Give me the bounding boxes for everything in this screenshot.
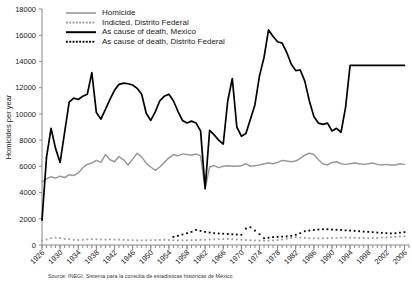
data-point bbox=[290, 235, 292, 237]
data-point bbox=[109, 238, 111, 240]
x-axis-tick-label: 1966 bbox=[209, 248, 227, 266]
data-point bbox=[154, 239, 156, 241]
x-axis-tick-label: 1998 bbox=[354, 248, 372, 266]
data-point bbox=[200, 239, 202, 241]
data-point bbox=[390, 233, 392, 235]
data-point bbox=[227, 238, 229, 240]
data-point bbox=[358, 237, 360, 239]
data-point bbox=[304, 237, 306, 239]
y-axis-tick-label: 10000 bbox=[15, 110, 36, 119]
y-axis-tick-label: 16000 bbox=[15, 31, 36, 40]
data-point bbox=[263, 240, 265, 242]
data-point bbox=[191, 239, 193, 241]
data-point bbox=[82, 239, 84, 241]
legend-item-2: As cause of death, Mexico bbox=[66, 27, 196, 36]
data-point bbox=[376, 232, 378, 234]
x-axis-tick-label: 2002 bbox=[373, 248, 391, 266]
x-axis-tick-label: 1938 bbox=[83, 248, 101, 266]
data-point bbox=[390, 236, 392, 238]
data-point bbox=[385, 237, 387, 239]
data-point bbox=[182, 234, 184, 236]
data-point bbox=[268, 237, 270, 239]
data-point bbox=[367, 237, 369, 239]
legend-swatch-dot bbox=[83, 22, 85, 24]
y-axis-tick-label: 14000 bbox=[15, 57, 36, 66]
data-point bbox=[327, 228, 329, 230]
legend-item-label: As cause of death, Distrito Federal bbox=[102, 37, 225, 46]
data-point bbox=[399, 232, 401, 234]
data-point bbox=[132, 239, 134, 241]
data-point bbox=[281, 239, 283, 241]
legend-swatch-dot bbox=[89, 22, 91, 24]
x-axis-tick-label: 1990 bbox=[318, 248, 336, 266]
data-point bbox=[68, 238, 70, 240]
legend-swatch-dot bbox=[79, 41, 81, 43]
data-point bbox=[127, 239, 129, 241]
data-point bbox=[395, 232, 397, 234]
data-point bbox=[123, 239, 125, 241]
data-point bbox=[231, 238, 233, 240]
legend-swatch-dot bbox=[79, 22, 81, 24]
legend-swatch-dot bbox=[76, 41, 78, 43]
data-point bbox=[263, 237, 265, 239]
data-point bbox=[159, 239, 161, 241]
data-point bbox=[213, 238, 215, 240]
data-point bbox=[313, 237, 315, 239]
legend-item-1: Indicted, Distrito Federal bbox=[66, 18, 189, 27]
x-axis-tick-label: 1978 bbox=[264, 248, 282, 266]
data-point bbox=[345, 229, 347, 231]
x-axis-tick-label: 1926 bbox=[28, 248, 46, 266]
x-axis-tick-label: 1954 bbox=[155, 248, 173, 266]
series-3-dots bbox=[173, 226, 406, 239]
data-point bbox=[331, 229, 333, 231]
legend-swatch-dot bbox=[69, 22, 71, 24]
data-point bbox=[259, 233, 261, 235]
data-point bbox=[322, 237, 324, 239]
data-point bbox=[231, 233, 233, 235]
data-point bbox=[277, 239, 279, 241]
data-point bbox=[173, 236, 175, 238]
x-axis-tick-label: 1930 bbox=[46, 248, 64, 266]
data-point bbox=[186, 232, 188, 234]
data-point bbox=[286, 238, 288, 240]
x-axis-tick-label: 1982 bbox=[282, 248, 300, 266]
data-point bbox=[363, 231, 365, 233]
data-point bbox=[376, 237, 378, 239]
data-point bbox=[259, 240, 261, 242]
x-axis-tick-label: 1958 bbox=[173, 248, 191, 266]
data-point bbox=[245, 239, 247, 241]
data-point bbox=[64, 238, 66, 240]
data-point bbox=[240, 234, 242, 236]
data-point bbox=[349, 230, 351, 232]
y-axis-tick-label: 6000 bbox=[19, 162, 36, 171]
data-point bbox=[254, 240, 256, 242]
legend-swatch-dot bbox=[66, 22, 68, 24]
data-point bbox=[340, 237, 342, 239]
data-point bbox=[59, 237, 61, 239]
data-point bbox=[322, 228, 324, 230]
data-point bbox=[91, 238, 93, 240]
data-point bbox=[340, 229, 342, 231]
data-point bbox=[218, 233, 220, 235]
data-point bbox=[191, 231, 193, 233]
data-point bbox=[236, 234, 238, 236]
data-point bbox=[290, 237, 292, 239]
data-point bbox=[313, 229, 315, 231]
data-point bbox=[240, 239, 242, 241]
data-point bbox=[308, 230, 310, 232]
data-point bbox=[200, 230, 202, 232]
data-point bbox=[168, 239, 170, 241]
y-axis-tick-label: 4000 bbox=[19, 188, 36, 197]
data-point bbox=[163, 239, 165, 241]
x-axis-tick-label: 1986 bbox=[300, 248, 318, 266]
data-point bbox=[299, 232, 301, 234]
data-point bbox=[395, 236, 397, 238]
legend-swatch-dot bbox=[76, 22, 78, 24]
data-point bbox=[381, 237, 383, 239]
data-point bbox=[295, 234, 297, 236]
data-point bbox=[41, 240, 43, 242]
data-point bbox=[336, 229, 338, 231]
data-point bbox=[114, 239, 116, 241]
data-point bbox=[195, 239, 197, 241]
data-point bbox=[195, 229, 197, 231]
